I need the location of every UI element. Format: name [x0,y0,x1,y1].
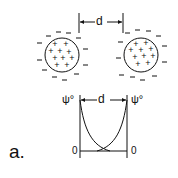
charge-symbols: ++ +++ +++ ++ ++ +++ +++ ++ [48,38,155,70]
svg-text:+: + [54,60,59,70]
right-potential-label: ψ° [131,94,143,105]
svg-text:+: + [135,59,140,69]
left-potential-curve [80,100,110,151]
right-potential-curve [97,100,127,151]
svg-text:+: + [64,60,69,70]
top-distance-label: d [96,15,103,27]
left-zero-label: 0 [72,146,78,156]
svg-text:+: + [69,53,74,63]
svg-text:+: + [150,51,155,61]
left-potential-label: ψ° [62,94,74,105]
double-layer-diagram: ++ +++ +++ ++ ++ +++ +++ ++ d d ψ° ψ° 0 … [0,0,178,178]
right-zero-label: 0 [131,146,137,156]
panel-label: a. [9,142,25,161]
bottom-distance-label: d [98,93,105,105]
svg-text:+: + [145,58,150,68]
diagram-graphics: ++ +++ +++ ++ ++ +++ +++ ++ [0,0,178,178]
